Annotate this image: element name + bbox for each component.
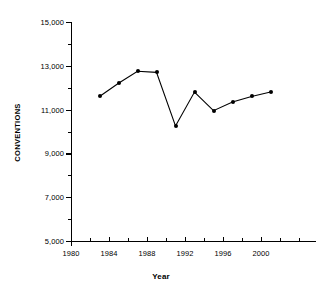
data-point <box>193 90 197 94</box>
data-point <box>174 124 178 128</box>
data-series-line <box>0 0 322 296</box>
y-axis-title: CONVENTIONS <box>13 93 22 173</box>
data-point <box>117 81 121 85</box>
data-point <box>212 109 216 113</box>
chart-container: 15,000 13,000 11,000 9,000 7,000 5,000 1… <box>0 0 322 296</box>
data-point <box>136 69 140 73</box>
data-point <box>155 70 159 74</box>
x-axis-title: Year <box>0 272 322 281</box>
data-point <box>231 100 235 104</box>
plot-area: 15,000 13,000 11,000 9,000 7,000 5,000 1… <box>0 0 322 296</box>
data-point <box>269 90 273 94</box>
